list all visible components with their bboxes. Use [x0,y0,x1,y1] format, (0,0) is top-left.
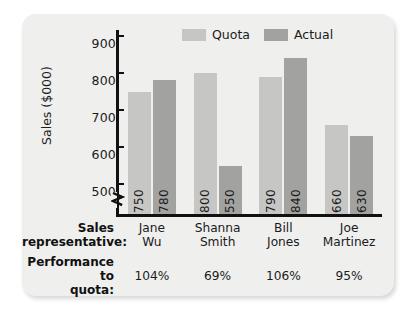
name-line1: Shanna [195,221,241,235]
name-line2: Jones [251,235,317,249]
name-line2: Smith [185,235,251,249]
performance-cell-3: 95% [316,269,382,283]
name-line2: Martinez [316,235,382,249]
table-row-performance-to-quota: Performance to quota: 104% 69% 106% 95% [22,255,394,297]
performance-cells: 104% 69% 106% 95% [119,255,382,283]
name-line1: Joe [340,221,359,235]
bar-value-label: 790 [264,189,278,213]
row-label-line2: quota: [70,283,114,297]
bar-actual-shanna-smith: 550 [219,166,242,215]
row-label-line2: representative: [22,235,127,249]
performance-cell-2: 106% [251,269,317,283]
name-cell-1: Shanna Smith [185,221,251,249]
performance-cell-0: 104% [119,269,185,283]
chart-plot-area: Sales ($000) 900 800 700 600 500 [22,14,394,296]
bar-value-label: 750 [132,189,146,213]
bar-group: 750 780 800 550 790 840 660 630 [119,30,382,214]
bar-value-label: 630 [355,189,369,213]
bar-quota-shanna-smith: 800 [194,73,217,214]
name-line1: Jane [139,221,165,235]
bar-quota-bill-jones: 790 [259,77,282,214]
bar-actual-jane-wu: 780 [153,80,176,214]
bar-actual-joe-martinez: 630 [350,136,373,214]
name-cells: Jane Wu Shanna Smith Bill Jones Joe Mart… [119,221,382,249]
y-axis-title: Sales ($000) [39,46,54,166]
name-cell-0: Jane Wu [119,221,185,249]
row-label-performance-to-quota: Performance to quota: [22,255,119,297]
name-line2: Wu [119,235,185,249]
name-cell-2: Bill Jones [251,221,317,249]
y-tick-label-800: 800 [70,73,116,88]
bar-value-label: 840 [289,189,303,213]
chart-card: Sales ($000) 900 800 700 600 500 [22,14,394,296]
bar-value-label: 800 [198,189,212,213]
row-label-sales-representative: Sales representative: [22,221,119,249]
name-cell-3: Joe Martinez [316,221,382,249]
bar-value-label: 550 [223,189,237,213]
row-label-line1: Sales [78,221,114,235]
table-row-sales-representative: Sales representative: Jane Wu Shanna Smi… [22,221,394,249]
y-tick-label-600: 600 [70,147,116,162]
y-tick-label-900: 900 [70,36,116,51]
y-tick-label-500: 500 [70,184,116,199]
bar-quota-joe-martinez: 660 [325,125,348,214]
bar-actual-bill-jones: 840 [284,58,307,214]
bar-quota-jane-wu: 750 [128,92,151,215]
x-axis-line [116,214,382,217]
y-tick-label-700: 700 [70,110,116,125]
performance-cell-1: 69% [185,269,251,283]
bar-value-label: 660 [330,189,344,213]
name-line1: Bill [274,221,293,235]
category-table: Sales representative: Jane Wu Shanna Smi… [22,219,394,297]
bar-value-label: 780 [157,189,171,213]
row-label-line1: Performance to [27,255,114,283]
